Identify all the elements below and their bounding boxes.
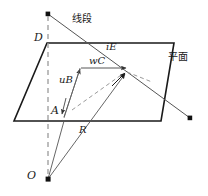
vector-r-label: R bbox=[79, 125, 87, 135]
line-segment-label: 线段 bbox=[72, 14, 92, 24]
point-d-label: D bbox=[34, 32, 43, 43]
plane-label: 平面 bbox=[168, 52, 188, 62]
line-o-to-a bbox=[48, 121, 64, 179]
segment-end-dot bbox=[188, 116, 193, 121]
figure-canvas bbox=[0, 0, 208, 196]
vector-wc-label: wC bbox=[89, 56, 105, 66]
point-o-label: O bbox=[27, 170, 36, 181]
vector-ie-label: iE bbox=[106, 42, 117, 52]
intersection-arrow bbox=[112, 73, 125, 86]
segment-start-dot bbox=[46, 12, 51, 17]
dashed-guide-to-intersection bbox=[72, 73, 124, 110]
geometry-figure: 线段 平面 D A O uB wC iE R bbox=[0, 0, 208, 196]
point-a-label: A bbox=[51, 105, 59, 116]
origin-dot bbox=[46, 177, 51, 182]
vector-ub-label: uB bbox=[59, 75, 73, 85]
